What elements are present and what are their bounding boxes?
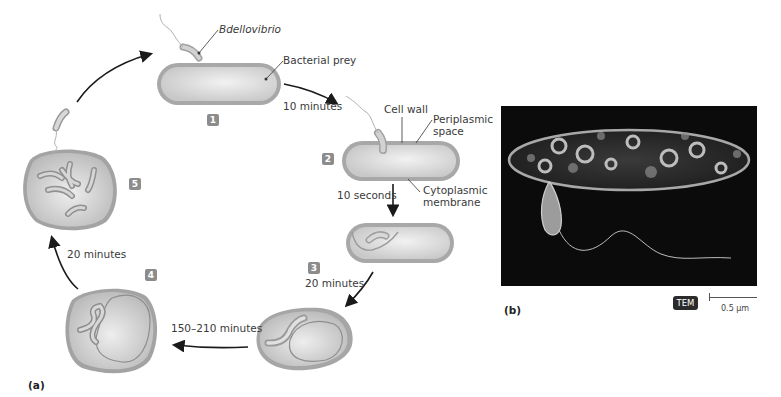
duration-150-210-minutes: 150–210 minutes [171,322,262,334]
step-3-bdelloplast [256,308,352,371]
step-badge-2: 2 [322,153,334,165]
step-badge-3: 3 [308,262,320,274]
arrow-3-to-4 [175,345,248,348]
tem-badge: TEM [673,296,698,310]
arrow-5-to-1 [77,54,150,102]
scale-bar-label: 0.5 µm [721,304,749,313]
duration-20-minutes-step4: 20 minutes [67,248,126,260]
step-5-lysis-release [23,112,117,230]
scale-bar [709,297,757,298]
duration-10-minutes: 10 minutes [283,100,342,112]
label-cytoplasmic-membrane: Cytoplasmic membrane [423,184,488,208]
label-bacterial-prey: Bacterial prey [283,54,356,66]
bdellovibrio-cell [160,14,199,58]
duration-10-seconds: 10 seconds [337,189,397,201]
arrow-4-to-5 [52,238,78,289]
label-cell-wall: Cell wall [384,103,428,115]
panel-label-a: (a) [28,379,45,391]
step-badge-5: 5 [129,178,141,190]
step-badge-1: 1 [207,114,219,126]
label-bdellovibrio: Bdellovibrio [219,23,281,35]
panel-label-b: (b) [504,304,521,316]
tem-micrograph [501,106,757,286]
step-badge-4: 4 [145,269,157,281]
leader-line-bdellovibrio [199,30,218,53]
label-periplasmic-space: Periplasmic space [433,113,493,137]
step-4-filament-growth [65,289,157,374]
step-3-penetrated-cell [346,223,454,263]
duration-20-minutes-step3: 20 minutes [305,277,364,289]
micrograph-image [501,106,757,286]
leader-line-periplasm [416,120,432,143]
step-1-prey-cell [157,63,281,105]
